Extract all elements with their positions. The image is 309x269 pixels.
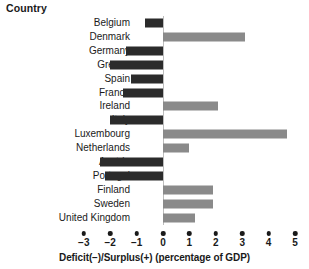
tick-dot [187,231,192,236]
bar-france [123,88,163,97]
bar-italy [110,116,163,125]
tick-label: 4 [266,237,272,248]
chart-row: France [0,86,309,100]
bar-finland [163,186,213,195]
plot-area: BelgiumDenmarkGermanyGreeceSpainFranceIr… [0,16,309,225]
tick-label: −3 [78,237,89,248]
category-label: Netherlands [76,143,130,153]
bar-belgium [145,18,163,27]
bar-sweden [163,199,213,208]
tick-dot [82,231,87,236]
bar-united-kingdom [163,213,195,222]
category-label: Spain [104,74,130,84]
category-label: Luxembourg [74,129,130,139]
chart-row: Luxembourg [0,127,309,141]
chart-row: Sweden [0,197,309,211]
bar-netherlands [163,144,189,153]
tick-dot [293,231,298,236]
tick-label: 1 [187,237,193,248]
chart-row: Ireland [0,100,309,114]
tick-label: 5 [292,237,298,248]
bar-germany [126,46,163,55]
chart-row: Netherlands [0,141,309,155]
category-axis-title: Country [6,2,47,14]
bar-austria [100,158,163,167]
tick-dot [108,231,113,236]
x-axis-tick-labels: −3−2−1012345 [0,237,309,250]
tick-dot [240,231,245,236]
tick-dot [161,231,166,236]
chart-row: Italy [0,113,309,127]
bar-spain [131,74,163,83]
tick-label: 0 [160,237,166,248]
category-label: Ireland [99,101,130,111]
tick-label: 3 [239,237,245,248]
chart-row: Spain [0,72,309,86]
chart-row: Greece [0,58,309,72]
bar-portugal [105,172,163,181]
category-label: Germany [89,46,130,56]
chart-row: Austria [0,155,309,169]
tick-label: −1 [131,237,142,248]
bar-greece [110,60,163,69]
category-label: Finland [97,185,130,195]
tick-label: −2 [104,237,115,248]
chart-row: United Kingdom [0,211,309,225]
category-label: Belgium [94,18,130,28]
tick-dot [214,231,219,236]
category-label: Sweden [94,199,130,209]
chart-row: Germany [0,44,309,58]
bar-denmark [163,32,245,41]
x-axis-title: Deficit(−)/Surplus(+) (percentage of GDP… [0,252,309,263]
chart-row: Portugal [0,169,309,183]
tick-label: 2 [213,237,219,248]
category-label: Denmark [89,32,130,42]
tick-dot [266,231,271,236]
chart-row: Belgium [0,16,309,30]
chart-row: Finland [0,183,309,197]
category-label: United Kingdom [59,213,130,223]
chart-row: Denmark [0,30,309,44]
tick-dot [134,231,139,236]
bar-luxembourg [163,130,287,139]
horizontal-bar-chart: Country BelgiumDenmarkGermanyGreeceSpain… [0,0,309,269]
bar-ireland [163,102,218,111]
